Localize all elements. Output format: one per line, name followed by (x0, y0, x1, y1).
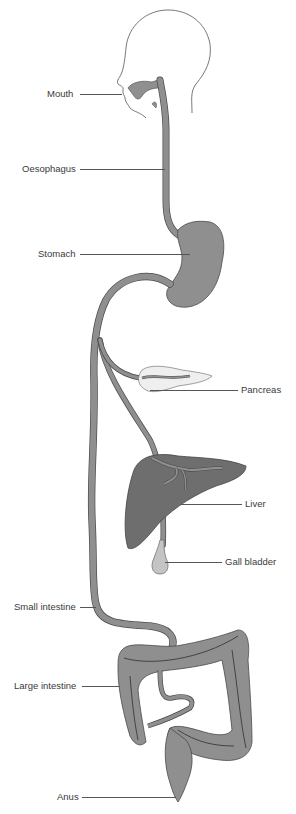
label-pancreas: Pancreas (241, 384, 281, 395)
epiglottis (152, 102, 157, 108)
label-gall-bladder: Gall bladder (225, 556, 276, 567)
leader-oesophagus (80, 169, 165, 170)
label-mouth: Mouth (47, 88, 73, 99)
label-small-intestine: Small intestine (14, 601, 76, 612)
label-anus: Anus (57, 791, 79, 802)
leader-anus (82, 797, 176, 798)
leader-large-intestine (82, 686, 120, 687)
label-stomach: Stomach (38, 248, 76, 259)
leader-stomach (80, 254, 190, 255)
digestive-system-diagram (0, 0, 296, 814)
leader-pancreas (150, 390, 238, 391)
mouth-shape (128, 80, 160, 99)
pancreas (139, 366, 212, 391)
leader-gall-bladder (165, 562, 222, 563)
label-oesophagus: Oesophagus (22, 163, 76, 174)
label-large-intestine: Large intestine (14, 680, 76, 691)
leader-liver (180, 504, 242, 505)
label-liver: Liver (245, 498, 266, 509)
leader-mouth (80, 94, 122, 95)
leader-small-intestine (80, 607, 96, 608)
